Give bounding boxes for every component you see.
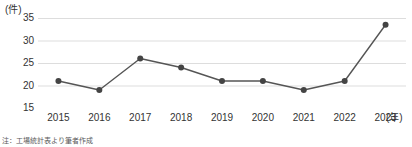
data-point-2015: [55, 78, 61, 84]
x-tick-2020: 2020: [252, 112, 274, 124]
data-point-2022: [342, 78, 348, 84]
y-axis-tick-labels: 35 30 25 20 15: [2, 18, 34, 108]
x-tick-2015: 2015: [47, 112, 69, 124]
plot-area: [38, 18, 406, 108]
data-point-2020: [260, 78, 266, 84]
chart-footnote: 注：工場統計表より筆者作成: [2, 136, 93, 145]
line-chart: (件) 35 30 25 20 15 201520162017201820192…: [0, 0, 412, 147]
y-tick-30: 30: [4, 36, 34, 46]
data-point-2019: [219, 78, 225, 84]
y-tick-25: 25: [4, 58, 34, 68]
x-axis-tick-labels: 201520162017201820192020202120222023: [38, 112, 406, 126]
x-axis-unit-label: (年): [386, 112, 403, 124]
y-tick-35: 35: [4, 13, 34, 23]
x-tick-2016: 2016: [88, 112, 110, 124]
x-tick-2021: 2021: [293, 112, 315, 124]
y-tick-20: 20: [4, 81, 34, 91]
data-point-2016: [96, 87, 102, 93]
data-point-2017: [137, 56, 143, 62]
y-tick-15: 15: [4, 103, 34, 113]
x-tick-2018: 2018: [170, 112, 192, 124]
plot-svg: [38, 18, 406, 108]
gridlines: [38, 19, 406, 109]
x-tick-2022: 2022: [334, 112, 356, 124]
data-point-2023: [383, 22, 389, 28]
x-tick-2017: 2017: [129, 112, 151, 124]
data-point-2021: [301, 87, 307, 93]
data-point-2018: [178, 65, 184, 71]
x-tick-2019: 2019: [211, 112, 233, 124]
